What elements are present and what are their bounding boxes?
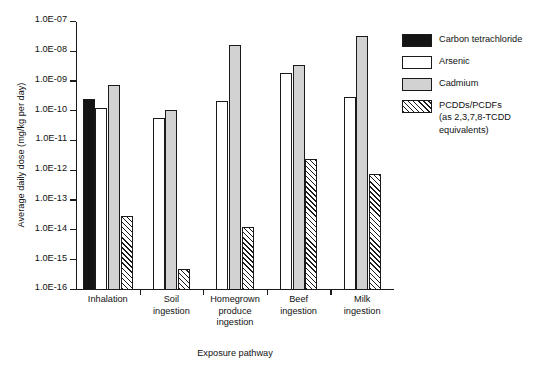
y-tick-label: 1.0E-13 (35, 193, 67, 203)
legend-swatch-icon (402, 34, 432, 47)
bar[interactable] (242, 227, 254, 290)
bar-group (83, 22, 133, 290)
y-tick-label: 1.0E-10 (35, 104, 67, 114)
legend-label-main: Arsenic (439, 55, 470, 67)
bar-group (153, 22, 190, 290)
y-tick: 1.0E-07 (70, 21, 76, 22)
legend-label-main: PCDDs/PCDFs (439, 99, 511, 111)
y-tick: 1.0E-10 (70, 110, 76, 111)
bar-group (344, 22, 381, 290)
y-tick-label: 1.0E-11 (36, 133, 68, 143)
legend-label: Arsenic (439, 55, 470, 67)
y-tick: 1.0E-09 (70, 80, 76, 81)
y-tick: 1.0E-12 (70, 170, 76, 171)
bar[interactable] (280, 73, 292, 290)
bar[interactable] (108, 85, 120, 290)
y-tick-label: 1.0E-08 (35, 44, 67, 54)
y-axis-line (76, 22, 77, 290)
legend-label: Carbon tetrachloride (439, 33, 522, 45)
chart-legend: Carbon tetrachlorideArsenicCadmiumPCDDs/… (402, 33, 550, 145)
y-tick-label: 1.0E-07 (35, 14, 67, 24)
bar[interactable] (95, 108, 107, 290)
x-axis-label: Exposure pathway (0, 348, 470, 358)
bar[interactable] (369, 174, 381, 290)
legend-label-main: Carbon tetrachloride (439, 33, 522, 45)
legend-label: PCDDs/PCDFs(as 2,3,7,8-TCDDequivalents) (439, 99, 511, 136)
legend-item[interactable]: Carbon tetrachloride (402, 33, 550, 47)
legend-label-sub2: equivalents) (439, 124, 511, 136)
bar-group (280, 22, 317, 290)
legend-swatch-icon (402, 56, 432, 69)
y-tick: 1.0E-08 (70, 51, 76, 52)
y-tick-label: 1.0E-15 (35, 253, 67, 263)
bar[interactable] (356, 36, 368, 290)
y-tick: 1.0E-16 (70, 289, 76, 290)
legend-label: Cadmium (439, 77, 478, 89)
bar[interactable] (229, 45, 241, 290)
bar[interactable] (305, 159, 317, 290)
chart-figure: Average daily dose (mg/kg per day) 1.0E-… (0, 0, 552, 380)
bar[interactable] (293, 65, 305, 290)
y-tick: 1.0E-13 (70, 199, 76, 200)
legend-item[interactable]: Cadmium (402, 77, 550, 91)
y-tick-label: 1.0E-16 (35, 282, 67, 292)
bar[interactable] (216, 101, 228, 290)
x-category-line: Milk (316, 294, 408, 306)
bar[interactable] (344, 97, 356, 290)
x-category-label: Milkingestion (316, 294, 408, 317)
legend-label-sub1: (as 2,3,7,8-TCDD (439, 111, 511, 123)
x-category-line: ingestion (189, 317, 281, 329)
legend-swatch-icon (402, 100, 432, 113)
y-tick-label: 1.0E-12 (35, 163, 67, 173)
y-tick: 1.0E-14 (70, 229, 76, 230)
bar-group (216, 22, 253, 290)
bar[interactable] (165, 110, 177, 290)
x-category-line: ingestion (316, 306, 408, 318)
legend-swatch-icon (402, 78, 432, 91)
bar[interactable] (153, 118, 165, 290)
bar[interactable] (83, 99, 95, 290)
legend-item[interactable]: PCDDs/PCDFs(as 2,3,7,8-TCDDequivalents) (402, 99, 550, 136)
y-tick-label: 1.0E-09 (35, 74, 67, 84)
y-tick: 1.0E-15 (70, 259, 76, 260)
plot-area: 1.0E-071.0E-081.0E-091.0E-101.0E-111.0E-… (76, 22, 394, 290)
bar[interactable] (178, 269, 190, 290)
y-axis-label: Average daily dose (mg/kg per day) (16, 55, 26, 255)
y-tick-label: 1.0E-14 (35, 223, 67, 233)
legend-item[interactable]: Arsenic (402, 55, 550, 69)
y-tick: 1.0E-11 (70, 140, 76, 141)
bar[interactable] (121, 216, 133, 290)
legend-label-main: Cadmium (439, 77, 478, 89)
